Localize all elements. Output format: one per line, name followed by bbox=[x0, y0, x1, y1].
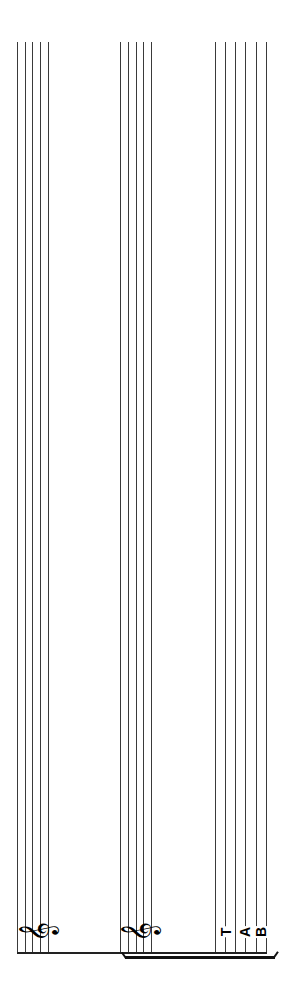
staff-line bbox=[32, 42, 33, 953]
tab-line bbox=[245, 42, 246, 953]
tab-line bbox=[266, 42, 267, 953]
tab-line bbox=[215, 42, 216, 953]
bracket-hook-end bbox=[273, 951, 278, 958]
staff-line bbox=[151, 42, 152, 953]
music-score: 𝄞 𝄞 T A B bbox=[0, 0, 287, 1003]
treble-clef-icon: 𝄞 bbox=[17, 912, 57, 952]
tab-line bbox=[256, 42, 257, 953]
tab-letter-b: B bbox=[254, 926, 268, 938]
staff-line bbox=[25, 42, 26, 953]
tab-letter-t: T bbox=[219, 927, 233, 938]
staff-line bbox=[120, 42, 121, 953]
staff-line bbox=[128, 42, 129, 953]
staff-line bbox=[48, 42, 49, 953]
staff-line bbox=[143, 42, 144, 953]
tab-line bbox=[235, 42, 236, 953]
staff-line bbox=[40, 42, 41, 953]
treble-clef-icon: 𝄞 bbox=[119, 912, 159, 952]
staff-line bbox=[136, 42, 137, 953]
tab-letter-a: A bbox=[238, 926, 252, 938]
tab-line bbox=[225, 42, 226, 953]
staff-line bbox=[17, 42, 18, 953]
staff-group-bracket bbox=[125, 956, 275, 959]
system-barline bbox=[17, 952, 267, 954]
